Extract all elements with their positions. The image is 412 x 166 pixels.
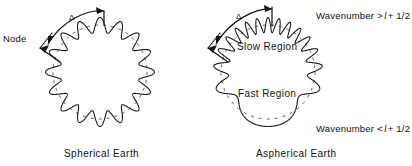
aspherical-reference-circle bbox=[221, 25, 315, 119]
diagram-canvas bbox=[0, 0, 412, 166]
node-label: Node bbox=[3, 34, 26, 44]
spherical-earth-panel bbox=[46, 18, 155, 127]
aspherical-earth-caption: Aspherical Earth bbox=[256, 149, 337, 159]
spherical-reference-circle bbox=[53, 25, 147, 119]
figure-root: Δ Node Spherical Earth Δ Wavenumber>l+ 1… bbox=[0, 0, 412, 166]
aspherical-standing-wave-curve bbox=[214, 18, 322, 127]
aspherical-delta-arrowhead-right bbox=[264, 5, 272, 12]
wavenumber-bottom-prefix: Wavenumber bbox=[316, 123, 374, 134]
wavenumber-bottom-label: Wavenumber<l+ 1/2 bbox=[316, 124, 410, 135]
spherical-earth-caption: Spherical Earth bbox=[64, 149, 139, 159]
fast-region-label: Fast Region bbox=[238, 89, 296, 99]
spherical-delta-label: Δ bbox=[69, 14, 75, 22]
aspherical-delta-arrow bbox=[216, 5, 272, 44]
wavenumber-top-label: Wavenumber>l+ 1/2 bbox=[316, 11, 410, 22]
wavenumber-top-plus: + 1/2 bbox=[388, 10, 410, 21]
spherical-standing-wave-curve bbox=[46, 18, 155, 127]
aspherical-delta-arc bbox=[216, 9, 272, 44]
slow-region-label: Slow Region bbox=[237, 42, 298, 52]
aspherical-delta-label: Δ bbox=[236, 13, 242, 21]
wavenumber-top-prefix: Wavenumber bbox=[316, 10, 374, 21]
spherical-delta-arrowhead-right bbox=[96, 7, 104, 14]
wavenumber-bottom-plus: + 1/2 bbox=[388, 123, 410, 134]
aspherical-earth-panel bbox=[214, 18, 322, 127]
